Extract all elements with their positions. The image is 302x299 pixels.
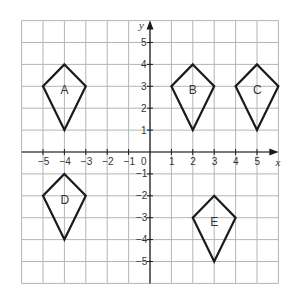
y-tick-label: 4 (141, 59, 147, 70)
y-tick-label: −4 (136, 234, 148, 245)
kite-label-e: E (210, 215, 218, 229)
x-tick-label: 1 (169, 156, 175, 167)
origin-label: 0 (141, 156, 147, 167)
kite-label-b: B (189, 83, 197, 97)
y-axis-label: y (138, 19, 144, 31)
x-tick-label: −3 (81, 156, 93, 167)
y-axis-arrow-icon (147, 21, 154, 30)
kite-label-a: A (60, 83, 68, 97)
y-tick-label: 3 (141, 81, 147, 92)
x-axis-label: x (274, 156, 280, 168)
x-axis-arrow-icon (269, 149, 278, 156)
y-tick-label: −5 (136, 256, 148, 267)
x-tick-label: −4 (59, 156, 71, 167)
x-tick-label: 4 (233, 156, 239, 167)
y-tick-label: 5 (141, 37, 147, 48)
x-tick-label: 5 (255, 156, 261, 167)
x-tick-label: 3 (212, 156, 218, 167)
kite-label-c: C (253, 83, 262, 97)
x-tick-label: 2 (190, 156, 196, 167)
y-tick-label: 1 (141, 125, 147, 136)
y-tick-label: −1 (136, 168, 148, 179)
coordinate-grid-diagram: −5−4−3−2−11234554321−1−2−3−4−50xyABCDE (0, 0, 302, 299)
y-tick-label: 2 (141, 103, 147, 114)
x-tick-label: −1 (124, 156, 136, 167)
kite-label-d: D (60, 193, 69, 207)
x-tick-label: −5 (38, 156, 50, 167)
x-tick-label: −2 (102, 156, 114, 167)
y-tick-label: −2 (136, 190, 148, 201)
y-tick-label: −3 (136, 212, 148, 223)
